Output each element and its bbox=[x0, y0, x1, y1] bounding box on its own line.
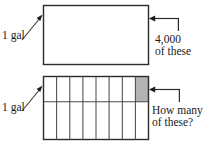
callout-top-subject: of these bbox=[155, 45, 191, 57]
unit-label-top: 1 gal bbox=[2, 29, 25, 41]
gal-pointer-arrow-bottom bbox=[22, 86, 43, 112]
callout-top: 4,000 of these bbox=[155, 33, 191, 57]
gal-pointer-arrow-top bbox=[22, 15, 43, 41]
grid-vertical-lines bbox=[57, 77, 136, 140]
callout-bottom-question: How many bbox=[152, 104, 203, 116]
callout-top-count: 4,000 bbox=[155, 33, 191, 45]
callout-leader-top bbox=[149, 16, 179, 31]
callout-bottom: How many of these? bbox=[152, 104, 203, 128]
whole-gallon-rectangle bbox=[44, 6, 149, 65]
callout-leader-bottom bbox=[149, 87, 180, 102]
callout-bottom-subject: of these? bbox=[152, 116, 203, 128]
unit-label-bottom: 1 gal bbox=[2, 101, 25, 113]
shaded-cell bbox=[135, 77, 148, 102]
